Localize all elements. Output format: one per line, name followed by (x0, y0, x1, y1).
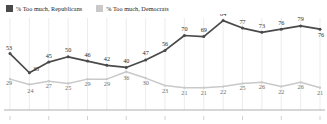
data-label-democrats: 29 (104, 80, 110, 87)
data-label-democrats: 29 (6, 79, 12, 86)
legend-item-democrats[interactable]: % Too much, Democrats (96, 5, 168, 12)
data-label-democrats: 27 (46, 82, 52, 89)
legend-label-democrats: % Too much, Democrats (106, 5, 168, 12)
data-label-democrats: 22 (220, 88, 226, 95)
data-label-republicans: 45 (46, 52, 52, 59)
data-label-republicans: 42 (104, 55, 110, 62)
data-label-democrats: 29 (84, 80, 90, 87)
data-label-democrats: 26 (298, 83, 304, 90)
data-label-republicans: 50 (65, 46, 71, 53)
data-label-democrats: 21 (181, 89, 187, 96)
data-label-republicans: 35 (33, 65, 39, 72)
data-label-republicans: 77 (239, 18, 245, 25)
legend-item-republicans[interactable]: % Too much, Republicans (6, 5, 82, 12)
data-label-democrats: 21 (317, 89, 323, 96)
legend-label-republicans: % Too much, Republicans (16, 5, 82, 12)
data-label-republicans: 76 (278, 19, 284, 26)
data-label-democrats: 25 (239, 84, 245, 91)
square-swatch-icon (96, 5, 103, 12)
data-label-democrats: 23 (162, 87, 168, 94)
data-label-republicans: 56 (162, 40, 168, 47)
data-label-democrats: 25 (65, 84, 71, 91)
data-label-republicans: 40 (123, 57, 129, 64)
line-chart: % Too much, Republicans % Too much, Demo… (0, 0, 327, 124)
square-swatch-icon (6, 5, 13, 12)
data-label-democrats: 26 (259, 83, 265, 90)
data-label-democrats: 21 (201, 89, 207, 96)
data-label-republicans: 84 (220, 14, 226, 17)
chart-legend: % Too much, Republicans % Too much, Demo… (6, 2, 169, 14)
data-label-republicans: 79 (298, 15, 304, 22)
data-label-democrats: 36 (123, 74, 129, 81)
data-label-republicans: 73 (259, 22, 265, 29)
data-label-republicans: 53 (6, 44, 12, 51)
data-label-republicans: 69 (201, 26, 207, 33)
data-label-democrats: 22 (278, 88, 284, 95)
data-label-democrats: 24 (27, 87, 33, 94)
data-label-democrats: 30 (143, 79, 149, 86)
data-label-republicans: 47 (143, 49, 149, 56)
data-label-republicans: 70 (181, 25, 187, 32)
axis-baseline (4, 110, 325, 120)
data-label-republicans: 46 (84, 51, 90, 58)
plot-svg: 2924272529293630232121222526222621 53354… (0, 14, 327, 124)
plot-area: 2924272529293630232121222526222621 53354… (0, 14, 327, 124)
data-label-republicans: 76 (318, 31, 324, 38)
gridlines (10, 18, 320, 110)
